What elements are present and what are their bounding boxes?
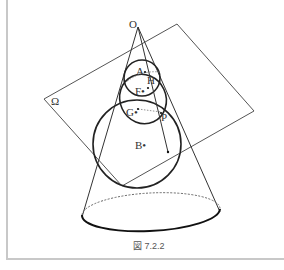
label-A: A	[136, 65, 144, 77]
label-F: F•	[135, 85, 145, 97]
cone-side-left	[82, 27, 138, 217]
point-F	[147, 87, 149, 89]
label-O: O	[129, 18, 137, 30]
point-A	[144, 71, 146, 73]
figure-caption: 図 7.2.2	[133, 241, 165, 251]
base-ellipse-back	[82, 193, 220, 215]
label-omega: Ω	[51, 95, 59, 107]
label-H: H	[147, 74, 155, 86]
label-P: P	[161, 111, 167, 123]
dandelin-spheres-diagram: O A H F• G• P B• Ω 図 7.2.2	[0, 0, 284, 270]
base-ellipse-front	[82, 209, 220, 231]
plane-omega	[44, 24, 254, 186]
label-B: B•	[135, 139, 146, 151]
cone-side-right	[138, 27, 220, 212]
point-end	[167, 151, 169, 153]
label-G: G•	[126, 106, 138, 118]
